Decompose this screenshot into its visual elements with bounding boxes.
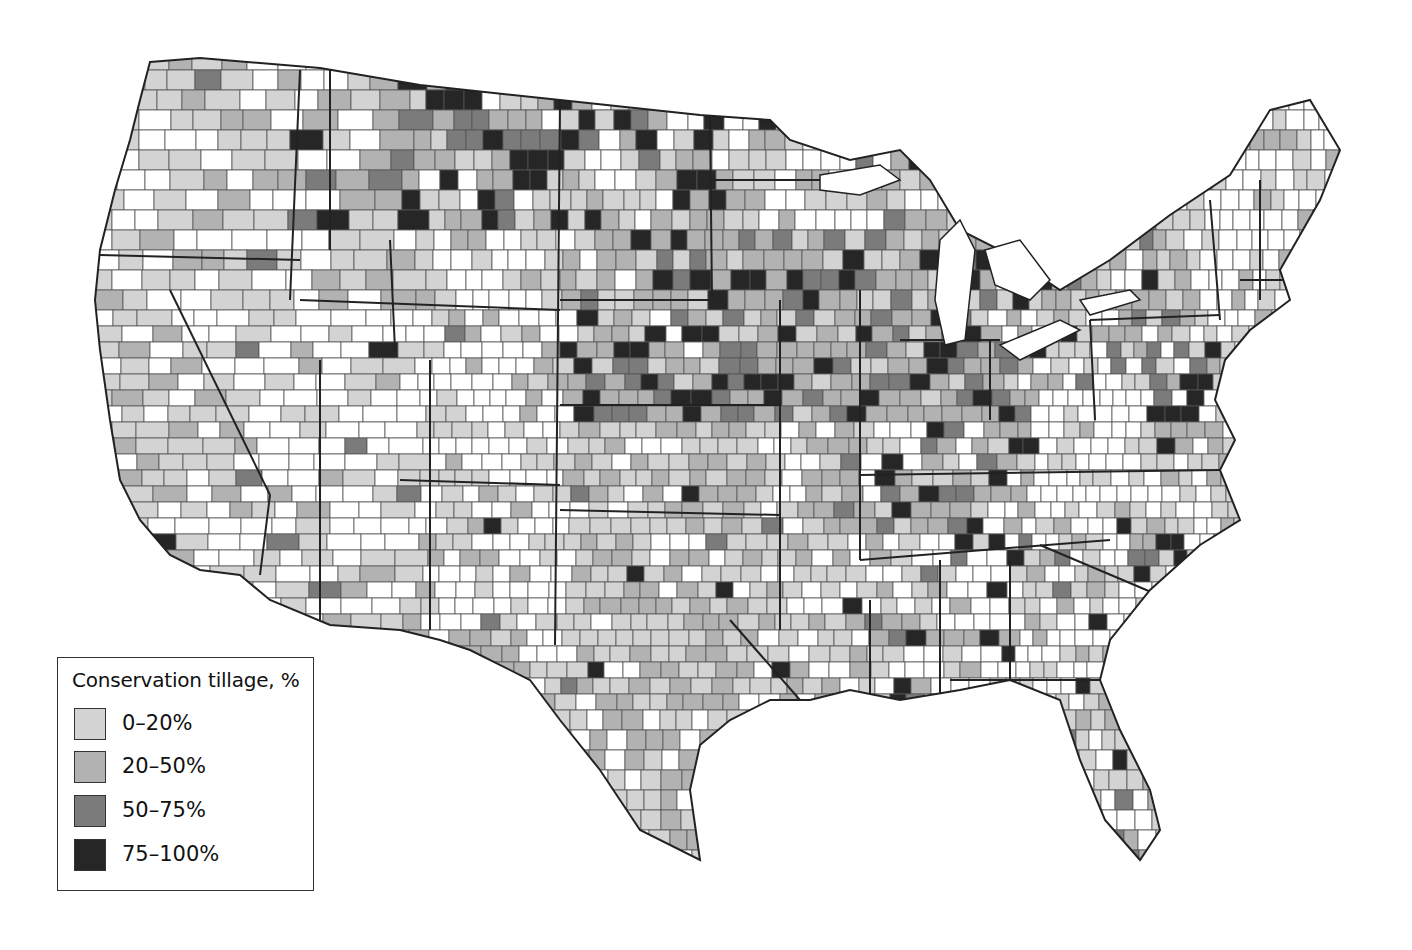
legend-label: 75–100%	[122, 842, 219, 866]
legend-item-20-50: 20–50%	[74, 751, 294, 785]
legend-label: 50–75%	[122, 798, 206, 822]
choropleth-map: Conservation tillage, % 0–20% 20–50% 50–…	[0, 0, 1412, 950]
legend-swatch	[74, 708, 106, 740]
legend-swatch	[74, 839, 106, 871]
legend-item-0-20: 0–20%	[74, 708, 294, 742]
legend-item-75-100: 75–100%	[74, 839, 294, 873]
legend-item-50-75: 50–75%	[74, 795, 294, 829]
legend-label: 20–50%	[122, 754, 206, 778]
map-legend: Conservation tillage, % 0–20% 20–50% 50–…	[57, 657, 314, 891]
legend-swatch	[74, 751, 106, 783]
legend-swatch	[74, 795, 106, 827]
legend-label: 0–20%	[122, 711, 193, 735]
legend-title: Conservation tillage, %	[72, 668, 299, 692]
